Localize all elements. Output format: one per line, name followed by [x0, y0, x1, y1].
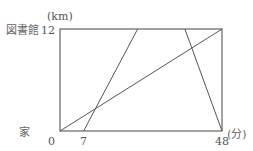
line-diagonal [60, 29, 222, 131]
line-return [185, 29, 222, 131]
y-unit-label: (km) [47, 10, 73, 23]
y-max-label: 12 [41, 24, 55, 37]
distance-time-diagram: (km) 図書館 12 家 0 7 48 (分) [0, 0, 253, 151]
home-label: 家 [19, 125, 30, 139]
x-unit-label: (分) [227, 128, 247, 141]
x-tick-label-7: 7 [80, 135, 87, 148]
line-start-7 [84, 29, 138, 131]
graph-lines [60, 29, 222, 131]
library-label: 図書館 [6, 23, 39, 37]
x-origin-label: 0 [48, 135, 55, 148]
